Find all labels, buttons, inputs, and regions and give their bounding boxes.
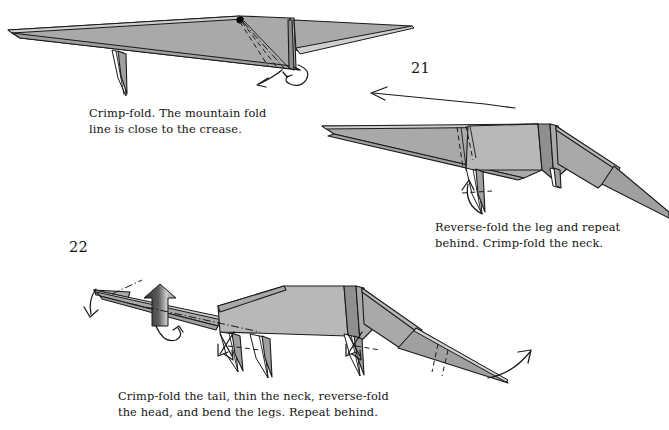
- figure-crimp-tail-bend-legs-diagram: [60, 268, 560, 383]
- step-number-22: 22: [69, 239, 88, 255]
- repeat-behind-arrow-head: [283, 72, 292, 77]
- step-number-21: 21: [411, 60, 430, 76]
- figure-crimp-fold-diagram: [0, 8, 420, 108]
- caption-figure-1: Crimp-fold. The mountain fold line is cl…: [89, 106, 299, 137]
- caption-figure-3: Crimp-fold the tail, thin the neck, reve…: [118, 389, 418, 420]
- neck-repeat-loop: [156, 326, 181, 341]
- paper-tail-long: [398, 328, 508, 383]
- origami-instruction-page: Crimp-fold. The mountain fold line is cl…: [0, 0, 669, 430]
- paper-tail: [602, 166, 669, 218]
- paper-body: [218, 286, 348, 336]
- caption-figure-2: Reverse-fold the leg and repeat behind. …: [435, 220, 665, 251]
- paper-body-block: [466, 124, 542, 170]
- figure-reverse-fold-leg-diagram: [318, 108, 669, 218]
- transition-arrow-line: [373, 93, 507, 107]
- tail-crimp-arrow-head: [518, 350, 531, 363]
